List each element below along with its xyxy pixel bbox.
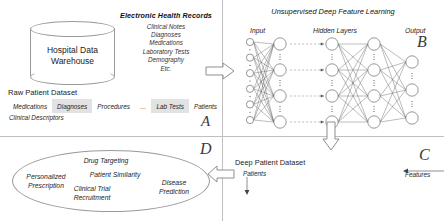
table-column-header: Patients [189, 99, 222, 113]
table-column-header: Diagnoses [52, 99, 92, 113]
neural-network-diagram [222, 0, 444, 136]
ehr-list: Electronic Health Records Clinical Notes… [117, 11, 215, 73]
ehr-item: Clinical Notes [117, 23, 215, 31]
clinical-descriptors-label: Clinical Descriptors [9, 114, 64, 121]
hospital-data-warehouse-cylinder: Hospital Data Warehouse [30, 21, 115, 83]
cylinder-label-line2: Warehouse [51, 56, 94, 66]
quadrant-letter-c: C [419, 146, 430, 164]
table-column-header: Lab Tests [151, 99, 188, 113]
application-clinical-trial-recruitment: Clinical Trial Recruitment [62, 184, 122, 202]
ehr-item: Laboratory Tests [117, 48, 215, 56]
application-drug-targeting: Drug Targeting [66, 156, 146, 165]
application-disease-prediction: Disease Prediction [148, 178, 200, 196]
arrow-c-to-d-icon [207, 165, 235, 183]
table-column-header: … [135, 99, 151, 113]
ehr-title: Electronic Health Records [117, 11, 215, 20]
cylinder-label-line1: Hospital Data [47, 45, 98, 55]
raw-patient-dataset-title: Raw Patient Dataset [8, 88, 77, 97]
quadrant-letter-d: D [200, 140, 212, 158]
raw-patient-dataset-table: Medications Diagnoses Procedures … Lab T… [8, 99, 222, 113]
arrow-b-to-c-icon [322, 121, 340, 151]
deep-dataset-axes [222, 150, 444, 200]
application-patient-similarity: Patient Similarity [72, 170, 158, 179]
figure-canvas: Hospital Data Warehouse Electronic Healt… [0, 0, 444, 221]
table-column-header: Medications [8, 99, 52, 113]
quadrant-divider-horizontal [0, 136, 444, 137]
ehr-item: Diagnoses [117, 31, 215, 39]
table-column-header: Procedures [92, 99, 135, 113]
quadrant-letter-b: B [417, 33, 427, 51]
ehr-item: Medications [117, 39, 215, 47]
ehr-item: Etc. [117, 65, 215, 73]
quadrant-letter-a: A [201, 113, 210, 130]
cylinder-bottom-ellipse [30, 69, 115, 85]
cylinder-label: Hospital Data Warehouse [30, 45, 115, 66]
ehr-item: Demography [117, 56, 215, 64]
cylinder-top-ellipse [30, 21, 115, 37]
